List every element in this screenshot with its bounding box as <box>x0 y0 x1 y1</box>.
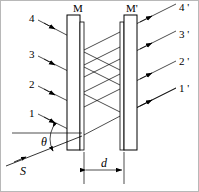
incident-arrow-4 <box>44 23 55 29</box>
mirror-mprime-right <box>120 15 137 150</box>
emergent-arrow-4 <box>140 16 152 22</box>
emergent-arrow-3 <box>140 43 152 49</box>
incident-arrow-3 <box>44 59 55 65</box>
mirror-m-plate <box>67 15 80 150</box>
emergent-ray-arrowheads <box>140 16 152 106</box>
source-ray-arrowhead <box>14 157 26 162</box>
figure-border <box>1 1 199 192</box>
mirror-mprime-label: M' <box>126 3 138 14</box>
diagram-canvas <box>0 0 199 192</box>
incident-ray-arrowheads <box>44 23 55 123</box>
angle-theta-label: θ <box>41 136 47 148</box>
source-label-s: S <box>20 165 26 177</box>
ray-bundle <box>38 4 176 136</box>
incident-ray-label-4: 4 <box>29 13 35 24</box>
mirror-mprime-plate <box>124 15 137 150</box>
incident-arrow-2 <box>44 89 55 95</box>
emergent-arrow-1 <box>140 100 152 106</box>
mirror-m-label: M <box>73 3 83 14</box>
incident-ray-label-2: 2 <box>29 79 35 90</box>
emergent-ray-label-1-prime: 1 ' <box>179 83 189 94</box>
emergent-ray-label-4-prime: 4 ' <box>179 2 189 13</box>
mirror-m-left <box>67 15 84 150</box>
internal-segment-a2 <box>82 93 124 114</box>
mirror-m-coating <box>80 22 84 150</box>
optics-ray-diagram-figure: M M' 4 3 2 1 4 ' 3 ' 2 ' 1 ' θ S d <box>0 0 199 192</box>
mirror-mprime-coating <box>120 22 124 150</box>
incident-ray-label-1: 1 <box>29 108 35 119</box>
emergent-ray-label-3-prime: 3 ' <box>179 29 189 40</box>
incident-arrow-1 <box>44 117 55 123</box>
separation-label-d: d <box>101 157 107 169</box>
emergent-ray-label-2-prime: 2 ' <box>179 56 189 67</box>
incident-ray-label-3: 3 <box>29 49 35 60</box>
internal-segment-a1 <box>82 114 124 136</box>
emergent-arrow-2 <box>140 73 152 79</box>
